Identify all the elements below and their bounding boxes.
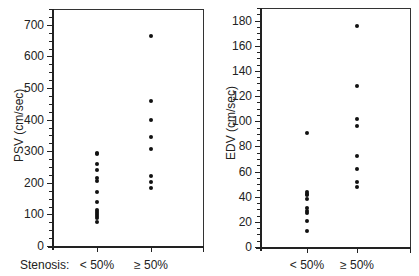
- data-point: [95, 216, 99, 220]
- x-category-label: < 50%: [290, 258, 324, 272]
- x-axis: [48, 246, 204, 248]
- y-minor-tick: [257, 27, 260, 28]
- y-minor-tick: [49, 191, 52, 192]
- y-minor-tick: [49, 143, 52, 144]
- y-major-tick: [255, 71, 260, 72]
- y-tick-label: 0: [12, 240, 44, 252]
- plot-frame: [52, 9, 204, 247]
- edv-axis-label: EDV (cm/sec): [224, 86, 238, 160]
- y-tick-label: 0: [220, 241, 252, 253]
- y-minor-tick: [257, 159, 260, 160]
- data-point: [355, 24, 359, 28]
- data-point: [95, 168, 99, 172]
- y-axis: [260, 8, 262, 251]
- x-tick: [307, 248, 308, 253]
- y-major-tick: [47, 214, 52, 215]
- y-minor-tick: [49, 199, 52, 200]
- y-minor-tick: [257, 65, 260, 66]
- x-axis: [256, 247, 411, 249]
- y-tick-label: 700: [12, 19, 44, 31]
- y-major-tick: [47, 151, 52, 152]
- y-minor-tick: [49, 17, 52, 18]
- data-point: [149, 34, 153, 38]
- y-minor-tick: [49, 96, 52, 97]
- y-minor-tick: [257, 128, 260, 129]
- x-tick: [410, 248, 411, 253]
- y-tick-label: 200: [12, 177, 44, 189]
- x-category-label: ≥ 50%: [134, 258, 168, 272]
- y-minor-tick: [257, 165, 260, 166]
- y-major-tick: [47, 183, 52, 184]
- y-major-tick: [47, 120, 52, 121]
- x-tick: [97, 247, 98, 252]
- y-minor-tick: [257, 14, 260, 15]
- y-minor-tick: [257, 8, 260, 9]
- y-tick-label: 40: [220, 191, 252, 203]
- y-major-tick: [255, 21, 260, 22]
- y-minor-tick: [49, 64, 52, 65]
- y-minor-tick: [257, 228, 260, 229]
- data-point: [355, 124, 359, 128]
- data-point: [355, 167, 359, 171]
- data-point: [305, 131, 309, 135]
- y-minor-tick: [257, 184, 260, 185]
- y-minor-tick: [257, 33, 260, 34]
- x-category-label: ≥ 50%: [340, 258, 374, 272]
- y-minor-tick: [49, 159, 52, 160]
- y-major-tick: [255, 146, 260, 147]
- y-minor-tick: [257, 77, 260, 78]
- y-minor-tick: [49, 207, 52, 208]
- y-major-tick: [255, 96, 260, 97]
- data-point: [95, 152, 99, 156]
- data-point: [149, 135, 153, 139]
- y-tick-label: 180: [220, 15, 252, 27]
- data-point: [95, 162, 99, 166]
- data-point: [149, 186, 153, 190]
- y-major-tick: [255, 222, 260, 223]
- y-tick-label: 20: [220, 216, 252, 228]
- y-major-tick: [255, 247, 260, 248]
- y-minor-tick: [257, 90, 260, 91]
- y-tick-label: 140: [220, 65, 252, 77]
- y-minor-tick: [49, 238, 52, 239]
- y-minor-tick: [49, 112, 52, 113]
- x-tick: [357, 248, 358, 253]
- y-minor-tick: [257, 209, 260, 210]
- y-minor-tick: [49, 104, 52, 105]
- y-minor-tick: [257, 234, 260, 235]
- y-major-tick: [47, 56, 52, 57]
- y-minor-tick: [257, 140, 260, 141]
- y-minor-tick: [49, 167, 52, 168]
- x-tick: [203, 247, 204, 252]
- y-minor-tick: [257, 153, 260, 154]
- data-point: [149, 118, 153, 122]
- data-point: [355, 180, 359, 184]
- data-point: [305, 229, 309, 233]
- y-minor-tick: [49, 175, 52, 176]
- y-minor-tick: [49, 33, 52, 34]
- data-point: [355, 117, 359, 121]
- y-minor-tick: [257, 58, 260, 59]
- y-minor-tick: [49, 230, 52, 231]
- data-point: [95, 220, 99, 224]
- data-point: [355, 185, 359, 189]
- y-major-tick: [255, 46, 260, 47]
- y-major-tick: [47, 246, 52, 247]
- plot-frame: [260, 8, 411, 248]
- y-minor-tick: [49, 49, 52, 50]
- y-tick-label: 60: [220, 166, 252, 178]
- y-minor-tick: [49, 135, 52, 136]
- data-point: [305, 219, 309, 223]
- y-minor-tick: [257, 115, 260, 116]
- y-major-tick: [255, 197, 260, 198]
- data-point: [355, 154, 359, 158]
- y-minor-tick: [49, 128, 52, 129]
- y-minor-tick: [257, 241, 260, 242]
- y-minor-tick: [257, 102, 260, 103]
- y-minor-tick: [257, 216, 260, 217]
- data-point: [305, 197, 309, 201]
- y-major-tick: [255, 121, 260, 122]
- x-tick: [151, 247, 152, 252]
- y-major-tick: [255, 172, 260, 173]
- data-point: [355, 84, 359, 88]
